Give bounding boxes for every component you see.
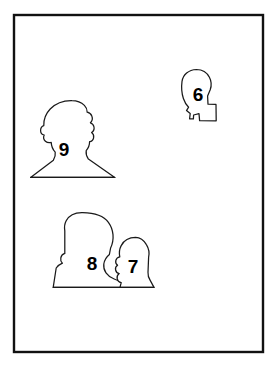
illustration-canvas: 6987 — [0, 0, 276, 366]
figure-7-label: 7 — [128, 256, 139, 277]
border-frame — [14, 15, 263, 352]
figure-6-label: 6 — [193, 84, 204, 105]
figure-9-label: 9 — [59, 139, 70, 160]
line-art-drawing: 6987 — [0, 0, 276, 366]
figure-8-label: 8 — [87, 253, 98, 274]
